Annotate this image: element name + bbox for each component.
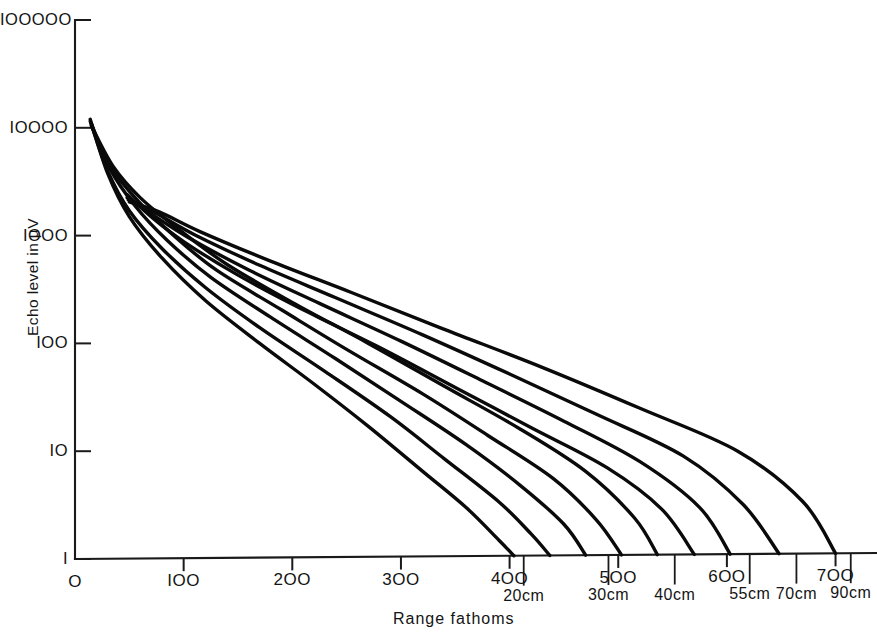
y-axis-ticks	[75, 20, 91, 559]
curve-group	[90, 119, 835, 555]
data-curve	[90, 121, 550, 555]
echo-level-chart: IIOIOOIOOOIOOOOIOOOOO OIOO2OO3OO4OO5OO6O…	[0, 0, 877, 632]
plot-area	[0, 0, 877, 632]
data-curve	[128, 200, 779, 554]
x-tick-label: O	[51, 572, 99, 592]
data-curve	[91, 126, 621, 555]
x-axis-line	[75, 553, 877, 559]
endpoint-label: 40cm	[643, 586, 707, 604]
x-axis-title: Range fathoms	[393, 610, 515, 628]
data-curve	[91, 123, 585, 555]
axes-group	[75, 20, 877, 586]
data-curve	[92, 128, 657, 555]
data-curve	[127, 195, 694, 555]
y-tick-label: IOOOOO	[0, 10, 68, 29]
x-tick-label: 3OO	[377, 570, 425, 590]
endpoint-label: 90cm	[819, 584, 877, 602]
y-tick-label: I	[0, 549, 68, 568]
endpoint-label: 30cm	[576, 586, 640, 604]
x-tick-label: IOO	[160, 571, 208, 591]
y-tick-label: IOOOO	[0, 118, 68, 137]
endpoint-label: 20cm	[492, 587, 556, 605]
x-tick-label: 5OO	[594, 568, 642, 588]
endpoint-ticks	[524, 553, 851, 585]
y-axis-title: Echo level in µV	[24, 182, 42, 372]
y-tick-label: IO	[0, 441, 68, 460]
x-tick-label: 2OO	[268, 570, 316, 590]
